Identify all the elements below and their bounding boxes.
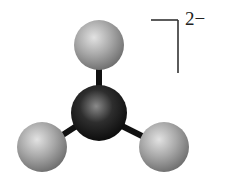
central-atom bbox=[71, 85, 127, 141]
charge-label: 2− bbox=[185, 9, 205, 28]
outer-atom-bottom-right bbox=[139, 122, 189, 172]
outer-atom-bottom-left bbox=[17, 122, 67, 172]
outer-atom-top bbox=[74, 20, 124, 70]
charge-bracket bbox=[151, 20, 178, 73]
